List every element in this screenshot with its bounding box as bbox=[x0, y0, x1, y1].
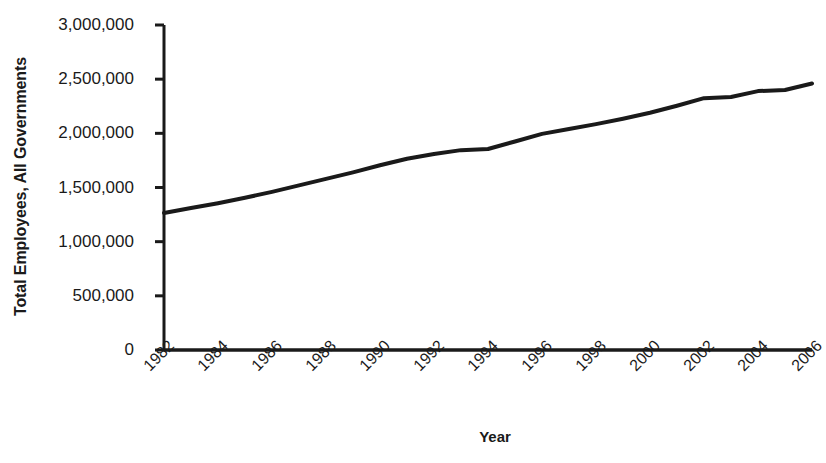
x-axis-tick-label: 1990 bbox=[356, 337, 394, 375]
x-axis-tick-label: 1984 bbox=[194, 337, 232, 375]
x-axis-tick-label: 1988 bbox=[302, 337, 340, 375]
x-axis-tick-label: 1996 bbox=[518, 337, 556, 375]
x-axis-tick-label: 2000 bbox=[626, 337, 664, 375]
line-chart: Total Employees, All Governments 0500,00… bbox=[0, 0, 826, 463]
x-axis-tick-label: 2004 bbox=[734, 337, 772, 375]
x-axis-tick-label: 1986 bbox=[248, 337, 286, 375]
x-axis-tick-label: 2002 bbox=[680, 337, 718, 375]
x-axis-title: Year bbox=[455, 428, 535, 445]
x-axis-tick-label: 1998 bbox=[572, 337, 610, 375]
x-axis-tick-label: 1992 bbox=[410, 337, 448, 375]
x-axis-tick-label: 2006 bbox=[788, 337, 826, 375]
x-axis-tick-labels: 1982198419861988199019921994199619982000… bbox=[0, 0, 826, 463]
x-axis-tick-label: 1994 bbox=[464, 337, 502, 375]
x-axis-tick-label: 1982 bbox=[140, 337, 178, 375]
